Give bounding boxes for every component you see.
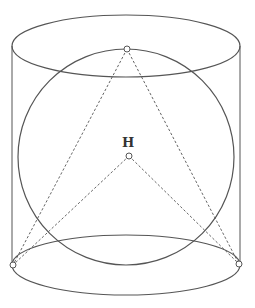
cone-edge-right	[127, 49, 239, 264]
h-to-left-base	[13, 156, 129, 265]
left-base-point	[10, 262, 16, 268]
apex-point	[124, 46, 130, 52]
cone-edge-left	[13, 49, 127, 265]
right-base-point	[236, 261, 242, 267]
label-h: H	[122, 135, 134, 150]
cylinder-sphere-diagram: H	[0, 0, 255, 308]
h-point	[126, 153, 132, 159]
